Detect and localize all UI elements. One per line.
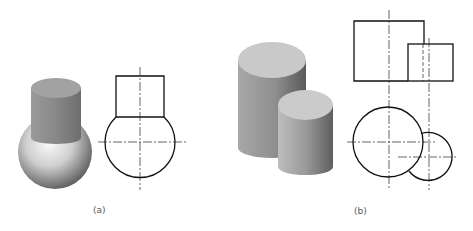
cylinder-top-face [31, 78, 81, 98]
small-cylinder-top-face [278, 90, 333, 120]
panel-b-label: (b) [354, 206, 367, 216]
panel-b-front-view [354, 10, 453, 190]
small-cylinder-front-outline [408, 44, 453, 81]
panel-a-orthographic-view [98, 67, 186, 190]
figure-canvas [0, 0, 473, 231]
cylinder-base-shadow [31, 132, 81, 144]
small-circle-outline [409, 132, 452, 180]
panel-a-label: (a) [93, 205, 106, 215]
panel-a-3d-view [18, 78, 92, 189]
large-cylinder-top-face [238, 42, 306, 78]
panel-b-top-view [347, 107, 456, 180]
panel-b-3d-view [238, 42, 333, 175]
small-cylinder-base [278, 159, 333, 175]
